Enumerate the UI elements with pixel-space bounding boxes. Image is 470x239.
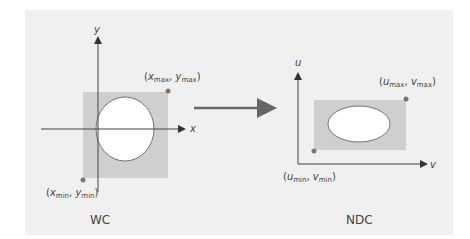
- ndc-min-label: (umin, vmin): [283, 171, 336, 184]
- ndc-min-point: [312, 149, 317, 154]
- ndc-ellipse: [328, 106, 390, 142]
- diagram-canvas: x y (xmax, ymax) (xmin, ymin) WC v u (um…: [0, 0, 470, 239]
- ndc-max-point: [404, 97, 409, 102]
- wc-min-point: [81, 178, 86, 183]
- ndc-diagram: v u (umax, vmax) (umin, vmin) NDC: [283, 57, 437, 227]
- ndc-v-label: v: [430, 159, 437, 170]
- wc-min-label: (xmin, ymin): [46, 187, 99, 200]
- ndc-u-label: u: [295, 57, 301, 68]
- ndc-max-label: (umax, vmax): [379, 76, 436, 89]
- ndc-caption: NDC: [346, 213, 373, 227]
- wc-max-label: (xmax, ymax): [144, 71, 201, 84]
- wc-y-label: y: [93, 24, 101, 35]
- wc-caption: WC: [90, 213, 110, 227]
- wc-diagram: x y (xmax, ymax) (xmin, ymin) WC: [41, 24, 201, 227]
- wc-x-label: x: [189, 123, 196, 134]
- wc-max-point: [166, 89, 171, 94]
